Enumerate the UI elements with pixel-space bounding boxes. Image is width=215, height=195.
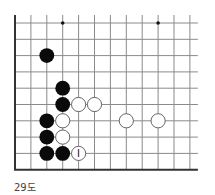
white-stone xyxy=(151,114,165,128)
white-stone xyxy=(72,97,86,111)
white-stone xyxy=(119,114,133,128)
black-stone xyxy=(39,130,54,145)
black-stone xyxy=(39,113,54,128)
white-stone xyxy=(87,97,101,111)
white-stone xyxy=(56,114,70,128)
black-stone xyxy=(39,146,54,161)
black-stone xyxy=(39,48,54,63)
white-stone xyxy=(56,130,70,144)
star-point-icon xyxy=(156,21,160,25)
stone-move-label: I xyxy=(77,148,80,159)
black-stone xyxy=(55,97,70,112)
go-board: I xyxy=(0,0,215,178)
star-point-icon xyxy=(61,21,65,25)
diagram-caption: 29도 xyxy=(14,179,36,194)
black-stone xyxy=(55,81,70,96)
black-stone xyxy=(55,146,70,161)
